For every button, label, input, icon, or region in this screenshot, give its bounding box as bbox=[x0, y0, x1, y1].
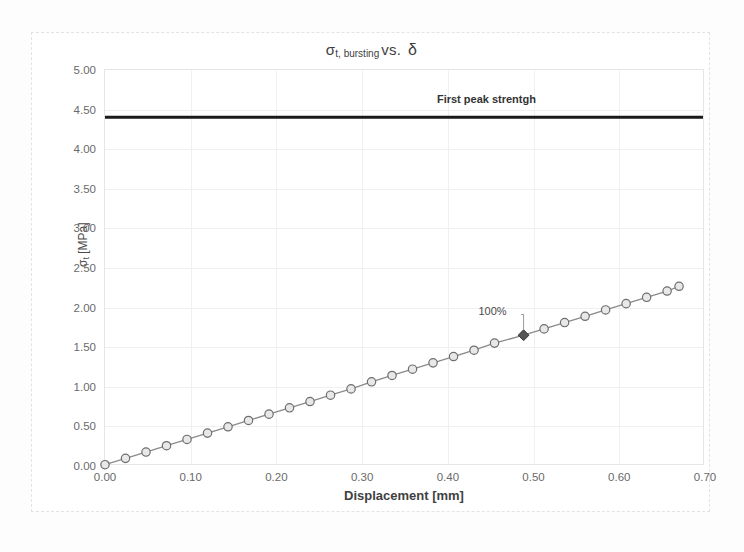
y-tick-label: 0.50 bbox=[74, 420, 96, 432]
data-point-marker bbox=[622, 299, 630, 307]
data-point-marker bbox=[581, 312, 589, 320]
data-point-marker bbox=[162, 442, 170, 450]
data-point-marker bbox=[408, 365, 416, 373]
data-point-marker bbox=[224, 423, 232, 431]
data-point-marker bbox=[663, 287, 671, 295]
data-point-marker bbox=[675, 282, 683, 290]
x-tick-label: 0.00 bbox=[94, 471, 116, 483]
chart-title-delta: δ bbox=[401, 41, 417, 58]
highlight-diamond-marker bbox=[518, 330, 529, 341]
data-point-marker bbox=[285, 404, 293, 412]
y-tick-label: 1.00 bbox=[74, 381, 96, 393]
x-tick-label: 0.60 bbox=[608, 471, 630, 483]
x-axis-title: Displacement [mm] bbox=[104, 488, 704, 503]
y-tick-label: 0.00 bbox=[74, 460, 96, 472]
data-point-marker bbox=[470, 346, 478, 354]
data-point-marker bbox=[265, 410, 273, 418]
data-point-marker bbox=[367, 378, 375, 386]
x-tick-label: 0.40 bbox=[437, 471, 459, 483]
y-tick-label: 2.50 bbox=[74, 262, 96, 274]
data-point-marker bbox=[326, 391, 334, 399]
data-point-marker bbox=[449, 352, 457, 360]
y-tick-label: 3.50 bbox=[74, 183, 96, 195]
chart-title-sigma: σ bbox=[326, 41, 335, 58]
x-tick-label: 0.10 bbox=[180, 471, 202, 483]
data-point-marker bbox=[142, 448, 150, 456]
chart-object: σt, burstingvs.δ σt [MPa] Displacement [… bbox=[31, 32, 710, 512]
data-point-marker bbox=[560, 318, 568, 326]
y-tick-label: 3.00 bbox=[74, 222, 96, 234]
data-point-marker bbox=[203, 429, 211, 437]
chart-title-vs: vs. bbox=[379, 41, 401, 58]
x-tick-label: 0.20 bbox=[265, 471, 287, 483]
first-peak-strength-label: First peak strentgh bbox=[437, 93, 536, 105]
chart-title: σt, burstingvs.δ bbox=[32, 41, 711, 59]
data-point-marker bbox=[601, 306, 609, 314]
data-point-marker bbox=[388, 371, 396, 379]
percent-100-label: 100% bbox=[478, 305, 506, 317]
data-point-marker bbox=[121, 454, 129, 462]
y-tick-label: 4.00 bbox=[74, 143, 96, 155]
y-tick-label: 4.50 bbox=[74, 104, 96, 116]
chart-title-subscript: t, bursting bbox=[335, 48, 379, 59]
data-point-marker bbox=[540, 325, 548, 333]
plot-svg bbox=[105, 70, 703, 465]
data-point-marker bbox=[306, 397, 314, 405]
plot-area: 0.000.501.001.502.002.503.003.504.004.50… bbox=[104, 69, 704, 465]
callout-leader-line bbox=[521, 315, 524, 330]
y-tick-label: 2.00 bbox=[74, 302, 96, 314]
data-point-marker bbox=[183, 435, 191, 443]
y-tick-label: 1.50 bbox=[74, 341, 96, 353]
x-tick-label: 0.30 bbox=[351, 471, 373, 483]
data-point-marker bbox=[490, 339, 498, 347]
page-background: σt, burstingvs.δ σt [MPa] Displacement [… bbox=[0, 0, 744, 552]
data-point-marker bbox=[244, 416, 252, 424]
data-point-marker bbox=[642, 293, 650, 301]
y-axis-subscript: t bbox=[81, 257, 91, 260]
y-tick-label: 5.00 bbox=[74, 64, 96, 76]
data-point-marker bbox=[101, 460, 109, 468]
data-point-marker bbox=[347, 385, 355, 393]
x-tick-label: 0.70 bbox=[694, 471, 716, 483]
data-point-marker bbox=[429, 359, 437, 367]
x-tick-label: 0.50 bbox=[522, 471, 544, 483]
